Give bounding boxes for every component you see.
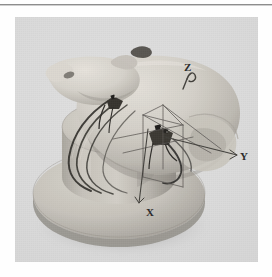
page-canvas: X Y Z — [0, 0, 272, 277]
axis-label-y: Y — [240, 151, 248, 162]
figure-artwork — [15, 17, 258, 262]
axis-label-z: Z — [184, 62, 191, 73]
axis-label-x: X — [146, 207, 154, 218]
figure-photograph: X Y Z — [15, 17, 258, 262]
page-top-rule-shadow — [0, 5, 272, 6]
